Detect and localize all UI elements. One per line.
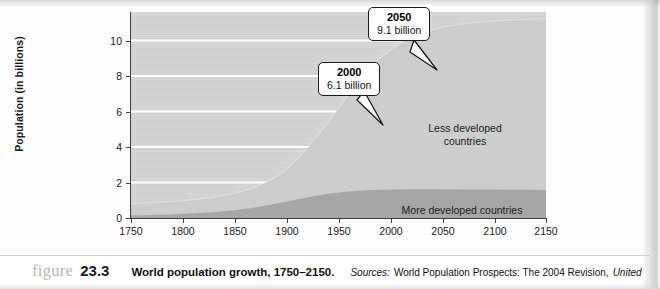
callout-2000-value: 6.1 billion — [327, 79, 371, 92]
scanned-page: Population (in billions) — [0, 0, 660, 289]
callout-2050: 2050 9.1 billion — [368, 7, 430, 41]
caption-divider — [0, 255, 650, 256]
caption-figure-number: 23.3 — [80, 262, 109, 279]
callout-leader-lines — [0, 0, 660, 255]
figure-caption: figure 23.3 World population growth, 175… — [0, 255, 660, 289]
caption-figure-word: figure — [32, 261, 73, 281]
figure-chart: Population (in billions) — [0, 0, 660, 255]
caption-title: World population growth, 1750–2150. — [131, 266, 334, 278]
caption-sources-italic: United — [613, 267, 642, 278]
callout-2050-value: 9.1 billion — [377, 24, 421, 37]
callout-2000: 2000 6.1 billion — [318, 62, 380, 96]
caption-sources-text: World Population Prospects: The 2004 Rev… — [394, 267, 609, 278]
callout-2050-year: 2050 — [377, 11, 421, 24]
callout-2000-year: 2000 — [327, 66, 371, 79]
caption-sources-label: Sources: — [350, 267, 389, 278]
